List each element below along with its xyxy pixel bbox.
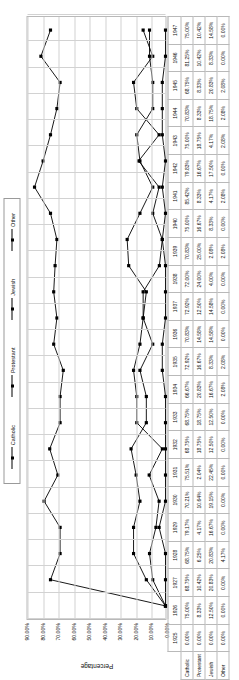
chart-canvas: Catholic Protestant Jewish Other Percent… [0,0,239,680]
data-point-marker [147,55,150,58]
data-point-marker [61,369,64,372]
table-cell: 4.17% [217,541,229,569]
data-point-marker [157,500,160,503]
table-row: Other0.00%0.00%0.00%4.17%0.00%0.00%0.00%… [217,17,229,680]
legend-marker-icon [11,298,12,320]
table-cell: 16.67% [193,210,205,238]
table-cell: 0.00% [217,44,229,72]
table-cell: 70.21% [181,486,193,514]
gridline-vertical [27,565,165,566]
y-axis-tick-label: 40.00% [101,620,107,678]
table-cell: 12.50% [205,597,217,625]
data-point-marker [163,552,166,555]
data-point-marker [131,526,134,529]
table-cell: 79.17% [181,514,193,542]
data-point-marker [138,369,141,372]
series-line-catholic [34,30,165,606]
y-axis-tick-label: 10.00% [147,620,153,678]
data-point-marker [147,28,150,31]
table-column-header: 1927 [168,569,181,597]
table-column-header: 1931 [168,459,181,487]
data-point-marker [163,395,166,398]
gridline-vertical [27,329,165,330]
table-cell: 0.00% [217,320,229,348]
data-point-marker [144,395,147,398]
table-row-header: Jewish [205,652,217,680]
table-cell: 4.17% [193,514,205,542]
table-cell: 68.75% [181,569,193,597]
data-point-marker [160,186,163,189]
table-column-header: 1932 [168,431,181,459]
table-cell: 8.33% [193,72,205,100]
y-axis-title: Percentage [26,660,166,674]
table-column-header: 1933 [168,403,181,431]
data-point-marker [160,107,163,110]
table-cell: 2.08% [217,72,229,100]
table-cell: 20.83% [205,541,217,569]
table-cell: 75.51% [181,459,193,487]
table-column-header: 1944 [168,99,181,127]
table-cell: 0.00% [217,486,229,514]
gridline-vertical [27,382,165,383]
table-cell: 70.83% [181,238,193,266]
data-point-marker [147,552,150,555]
data-point-marker [52,290,55,293]
data-point-marker [163,290,166,293]
data-point-marker [163,473,166,476]
data-point-marker [147,473,150,476]
gridline-vertical [27,460,165,461]
table-cell: 72.00% [181,265,193,293]
legend-item-jewish: Jewish [9,279,15,320]
table-cell: 18.75% [193,431,205,459]
gridline-vertical [27,277,165,278]
table-column-header: 1939 [168,238,181,266]
table-cell: 6.25% [193,541,205,569]
gridline-horizontal [74,17,75,619]
table-cell: 10.42% [193,17,205,45]
table-cell: 17.50% [205,155,217,183]
gridline-vertical [27,408,165,409]
gridline-horizontal [58,17,59,619]
table-row: Jewish0.00%12.50%20.83%20.83%16.67%19.15… [205,17,217,680]
table-cell: 68.75% [181,431,193,459]
table-cell: 75.00% [181,127,193,155]
table-cell: 2.08% [217,99,229,127]
table-cell: 0.00% [217,210,229,238]
table-cell: 4.17% [205,127,217,155]
data-point-marker [163,316,166,319]
table-cell: 20.83% [193,376,205,404]
table-cell: 75.00% [181,17,193,45]
data-point-marker [48,578,51,581]
table-cell: 8.33% [205,44,217,72]
gridline-horizontal [105,17,106,619]
data-point-marker [32,186,35,189]
table-cell: 16.67% [205,514,217,542]
table-cell: 66.67% [181,376,193,404]
table-cell: 70.83% [181,320,193,348]
table-cell: 10.42% [193,569,205,597]
table-cell: 4.00% [205,265,217,293]
table-cell: 12.50% [205,431,217,459]
data-point-marker [127,264,130,267]
table-cell: 12.50% [193,293,205,321]
data-point-marker [125,238,128,241]
gridline-horizontal [43,17,44,619]
table-column-header: 1942 [168,155,181,183]
table-column-header: 1934 [168,376,181,404]
gridline-vertical [27,539,165,540]
data-point-marker [131,552,134,555]
table-cell: 8.33% [205,210,217,238]
legend-item-protestant: Protestant [9,348,15,398]
table-header-row: 1925192619271928192919301931193219331934… [168,17,181,680]
table-column-header: 1945 [168,72,181,100]
table-cell: 0.00% [217,403,229,431]
table-cell: 0.00% [217,431,229,459]
table-cell: 16.67% [205,376,217,404]
gridline-vertical [27,303,165,304]
table-column-header: 1935 [168,348,181,376]
gridline-vertical [27,250,165,251]
data-point-marker [163,264,166,267]
data-point-marker [52,343,55,346]
table-cell: 4.17% [205,182,217,210]
data-point-marker [144,421,147,424]
